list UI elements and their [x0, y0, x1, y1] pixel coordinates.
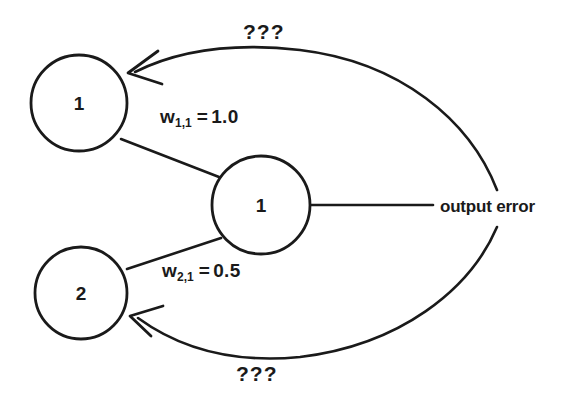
weight-subscript-1-1: 1,1	[175, 116, 192, 130]
unknown-label-top: ???	[243, 20, 284, 44]
weight-equals-1-1: =	[197, 106, 208, 127]
output-error-label: output error	[440, 197, 535, 217]
node-label-hidden-1: 1	[256, 195, 267, 216]
weight-label-1-1: w1,1=1.0	[160, 106, 239, 128]
weight-value-1-1: 1.0	[211, 106, 238, 127]
node-label-output-1: 1	[74, 93, 85, 114]
weight-symbol-2-1: w	[162, 260, 177, 281]
diagram-root: 1 2 1 w1,1=1.0 w2,1=0.5 output error ???…	[0, 0, 578, 405]
weight-subscript-2-1: 2,1	[177, 270, 194, 284]
weight-symbol-1-1: w	[160, 106, 175, 127]
unknown-label-bottom: ???	[236, 362, 277, 386]
weight-label-2-1: w2,1=0.5	[162, 260, 241, 282]
weight-value-2-1: 0.5	[213, 260, 240, 281]
node-label-output-2: 2	[76, 283, 87, 304]
weight-equals-2-1: =	[199, 260, 210, 281]
edge-node1-to-hidden	[121, 139, 219, 177]
